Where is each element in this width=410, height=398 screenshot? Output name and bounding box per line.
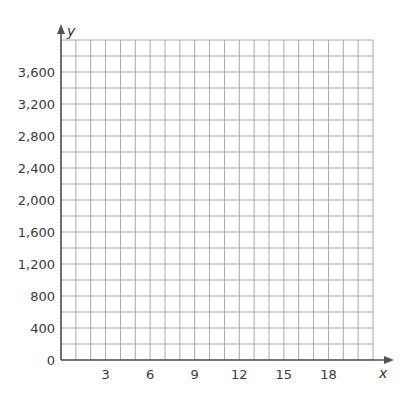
x-tick-label: 9	[191, 367, 199, 382]
y-tick-label: 800	[30, 289, 55, 304]
y-tick-label: 1,600	[18, 225, 55, 240]
x-tick-label: 15	[276, 367, 293, 382]
y-axis-arrow-icon	[57, 24, 65, 34]
x-axis-label: x	[378, 365, 388, 381]
coordinate-grid-chart: 04008001,2001,6002,0002,4002,8003,2003,6…	[0, 0, 410, 398]
y-axis-label: y	[66, 23, 76, 39]
x-tick-label: 3	[101, 367, 109, 382]
x-tick-label: 18	[320, 367, 337, 382]
x-axis-arrow-icon	[384, 356, 394, 364]
y-tick-label: 2,800	[18, 129, 55, 144]
x-tick-labels: 369121518	[101, 367, 336, 382]
x-tick-label: 12	[231, 367, 248, 382]
x-tick-label: 6	[146, 367, 154, 382]
grid-lines	[61, 40, 373, 360]
y-tick-label: 3,600	[18, 65, 55, 80]
y-tick-label: 1,200	[18, 257, 55, 272]
y-tick-label: 2,400	[18, 161, 55, 176]
y-tick-label: 2,000	[18, 193, 55, 208]
y-tick-label: 0	[47, 353, 55, 368]
y-tick-labels: 04008001,2001,6002,0002,4002,8003,2003,6…	[18, 65, 55, 368]
y-tick-label: 400	[30, 321, 55, 336]
y-tick-label: 3,200	[18, 97, 55, 112]
